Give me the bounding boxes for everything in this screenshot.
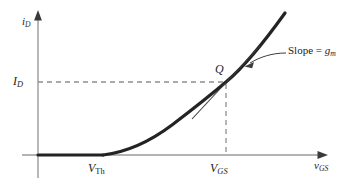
vth-subscript: Th [95, 167, 104, 176]
x-axis-subscript: GS [319, 164, 328, 173]
vgs-tick-label: VGS [210, 162, 228, 177]
vth-tick-label: VTh [88, 162, 105, 177]
y-axis-arrowhead [34, 10, 42, 21]
mosfet-transfer-characteristic-figure: iD vGS ID VTh VGS Q Slope = gm [0, 0, 353, 190]
slope-subscript: m [330, 49, 336, 58]
q-point-label: Q [215, 63, 224, 75]
y-axis-subscript: D [25, 20, 31, 29]
id-bias-label: ID [13, 75, 23, 90]
plot-canvas [0, 0, 353, 190]
id-bias-subscript: D [17, 80, 23, 89]
x-axis-label: vGS [314, 160, 328, 173]
x-axis-arrowhead [318, 151, 329, 159]
slope-annotation-text: Slope = [288, 44, 325, 56]
slope-annotation-label: Slope = gm [288, 45, 336, 58]
y-axis-label: iD [22, 16, 31, 29]
slope-annotation-leader [250, 53, 286, 63]
q-point-marker [225, 81, 227, 83]
vgs-subscript: GS [217, 167, 227, 176]
transfer-curve-conduction-segment [103, 13, 285, 155]
